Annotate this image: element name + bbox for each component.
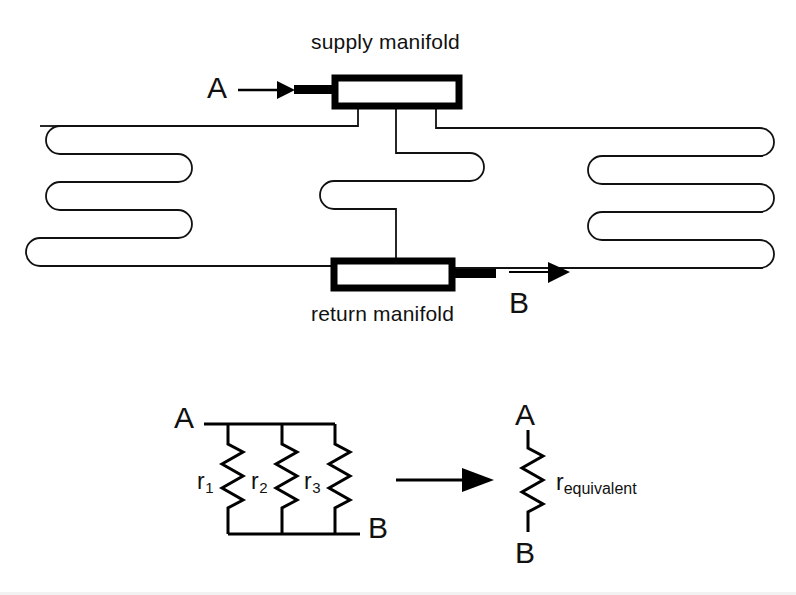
- left-circuit-pipe: [28, 106, 358, 238]
- return-manifold-body: [334, 261, 452, 288]
- equivalent-node-label-a: A: [515, 400, 535, 430]
- return-manifold-label: return manifold: [311, 303, 454, 324]
- equivalent-node-label-b: B: [515, 538, 535, 568]
- figure-root: supply manifold A return manifold B A B …: [0, 0, 796, 595]
- supply-inlet-stub: [294, 85, 338, 94]
- inlet-arrow-icon: [238, 81, 295, 99]
- return-outlet-stub: [450, 269, 496, 278]
- resistor-label-r1-sub: 1: [205, 479, 213, 496]
- parallel-node-label-b: B: [368, 513, 388, 543]
- middle-circuit-pipe: [320, 106, 484, 262]
- equivalent-resistor-label: requivalent: [556, 471, 637, 494]
- diagram-canvas: [0, 0, 796, 595]
- resistor-label-r3: r3: [304, 470, 320, 493]
- resistor-label-r1-base: r: [197, 468, 205, 494]
- resistor-label-r2-sub: 2: [259, 479, 267, 496]
- equivalent-resistor-symbol: [522, 430, 543, 532]
- resistor-label-r2: r2: [251, 470, 267, 493]
- inlet-node-label-a: A: [207, 73, 227, 103]
- equivalent-resistor-label-sub: equivalent: [564, 480, 637, 497]
- resistor-label-r1: r1: [197, 470, 213, 493]
- resistor-label-r3-base: r: [304, 468, 312, 494]
- supply-manifold-label: supply manifold: [311, 31, 460, 52]
- right-circuit-pipe: [436, 106, 774, 268]
- resistor-branch-r3: [329, 424, 350, 534]
- resistor-label-r3-sub: 3: [312, 479, 320, 496]
- outlet-node-label-b: B: [509, 288, 529, 318]
- left-circuit-return-run: [26, 238, 358, 266]
- transform-arrow-icon: [396, 468, 494, 492]
- outlet-arrow-icon: [509, 262, 570, 283]
- equivalent-resistor-label-base: r: [556, 469, 564, 495]
- resistor-branch-r2: [276, 424, 297, 534]
- resistor-label-r2-base: r: [251, 468, 259, 494]
- supply-manifold-body: [335, 78, 459, 106]
- resistor-branch-r1: [222, 424, 243, 534]
- parallel-node-label-a: A: [174, 403, 194, 433]
